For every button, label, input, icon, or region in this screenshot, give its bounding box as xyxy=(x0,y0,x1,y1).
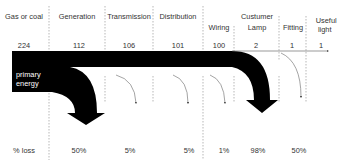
stage-label-gas-or-coal: Gas or coal xyxy=(5,13,43,21)
stage-value: 1 xyxy=(290,41,294,50)
stage-value: 224 xyxy=(18,41,30,50)
primary-energy-label: primary energy xyxy=(16,70,41,88)
loss-value: 5% xyxy=(184,146,195,155)
primary-energy-line2: energy xyxy=(16,79,41,88)
primary-energy-flow xyxy=(12,51,278,125)
loss-value: 50% xyxy=(292,146,307,155)
stage-label-distribution: Distribution xyxy=(160,13,197,21)
stage-value: 112 xyxy=(73,41,85,50)
loss-value: 1% xyxy=(219,146,230,155)
primary-energy-line1: primary xyxy=(16,70,41,79)
stage-value: 2 xyxy=(254,41,258,50)
energy-loss-sankey-diagram: Gas or coal Generation Transmission Dist… xyxy=(0,0,339,160)
stage-label-transmission: Transmission xyxy=(107,13,151,21)
stage-value: 101 xyxy=(172,41,184,50)
stage-label-useful-line1: Useful xyxy=(316,17,337,25)
stage-value: 100 xyxy=(213,41,225,50)
stage-value: 106 xyxy=(123,41,135,50)
loss-value: 98% xyxy=(251,146,266,155)
loss-value: 5% xyxy=(125,146,136,155)
stage-label-fitting: Fitting xyxy=(283,24,303,32)
stage-label-lamp: Lamp xyxy=(248,24,267,32)
loss-value: 50% xyxy=(72,146,87,155)
stage-label-wiring: Wiring xyxy=(209,24,230,32)
stage-label-generation: Generation xyxy=(59,13,96,21)
loss-row-label: % loss xyxy=(13,146,35,155)
stage-label-useful-line2: light xyxy=(318,26,332,34)
stage-label-customer-line1: Custumer xyxy=(241,13,273,21)
stage-value: 1 xyxy=(319,41,323,50)
